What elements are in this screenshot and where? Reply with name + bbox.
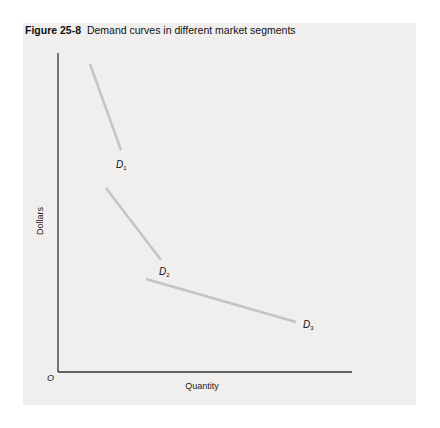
curve-d2 bbox=[106, 188, 161, 260]
x-axis-label: Quantity bbox=[185, 381, 219, 391]
demand-chart: D1 D2 D3 O Quantity Dollars bbox=[0, 0, 440, 428]
label-d3: D3 bbox=[303, 319, 314, 331]
label-d1: D1 bbox=[116, 159, 127, 171]
curve-d1 bbox=[90, 64, 121, 150]
origin-label: O bbox=[47, 373, 54, 383]
label-d2: D2 bbox=[159, 266, 170, 278]
y-axis-label: Dollars bbox=[35, 207, 45, 236]
curve-d3 bbox=[146, 279, 296, 322]
